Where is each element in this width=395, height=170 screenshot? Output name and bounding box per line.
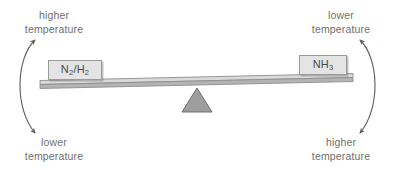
label-line-1: higher bbox=[6, 9, 102, 23]
curved-double-arrow-left bbox=[20, 40, 35, 133]
product-box-nh3: NH3 bbox=[299, 55, 347, 75]
label-line-1: lower bbox=[6, 136, 102, 150]
label-higher-temperature-bottom-right: higher temperature bbox=[293, 136, 389, 163]
label-line-1: lower bbox=[293, 9, 389, 23]
diagram-canvas: higher temperature lower temperature low… bbox=[0, 0, 395, 170]
label-line-2: temperature bbox=[6, 23, 102, 37]
label-lower-temperature-top-right: lower temperature bbox=[293, 9, 389, 36]
label-line-2: temperature bbox=[6, 150, 102, 164]
label-line-2: temperature bbox=[293, 150, 389, 164]
label-line-2: temperature bbox=[293, 23, 389, 37]
label-higher-temperature-top-left: higher temperature bbox=[6, 9, 102, 36]
curved-double-arrow-right bbox=[360, 40, 375, 133]
triangular-fulcrum bbox=[182, 88, 212, 112]
reactants-formula: N2/H2 bbox=[49, 64, 101, 77]
reactants-box-n2-h2: N2/H2 bbox=[48, 60, 102, 80]
label-lower-temperature-bottom-left: lower temperature bbox=[6, 136, 102, 163]
product-formula: NH3 bbox=[300, 59, 346, 72]
label-line-1: higher bbox=[293, 136, 389, 150]
